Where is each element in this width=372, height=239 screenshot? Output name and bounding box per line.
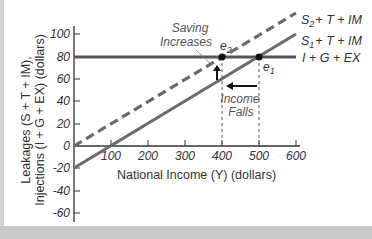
y-tick-label: 40 bbox=[57, 94, 71, 108]
x-axis: 100 200 300 400 500 600 bbox=[74, 140, 306, 163]
e1-point bbox=[256, 54, 263, 61]
income-falls-line2: Falls bbox=[228, 105, 253, 119]
saving-increases-line2: Increases bbox=[160, 35, 212, 49]
chart-svg: 100 80 60 40 20 0 -20 -40 -60 100 200 30… bbox=[0, 0, 372, 239]
x-tick-label: 300 bbox=[175, 149, 195, 163]
y-tick-label: -20 bbox=[53, 161, 71, 175]
y-tick-label: -40 bbox=[53, 184, 71, 198]
y-axis-title-line2: Injections (I + G + EX) (dollars) bbox=[33, 34, 47, 206]
y-tick-labels: 100 80 60 40 20 0 -20 -40 -60 bbox=[50, 27, 70, 220]
y-axis-title: Leakages (S + T + IM), Injections (I + G… bbox=[19, 34, 47, 206]
up-arrow-icon bbox=[213, 65, 221, 80]
x-tick-label: 400 bbox=[212, 149, 232, 163]
y-axis-title-line1: Leakages (S + T + IM), bbox=[19, 56, 33, 183]
y-tick-label: 20 bbox=[56, 117, 71, 131]
saving-increases-line1: Saving bbox=[172, 21, 209, 35]
e1-label: e1 bbox=[263, 60, 275, 76]
x-tick-label: 600 bbox=[286, 149, 306, 163]
y-tick-label: 80 bbox=[57, 50, 71, 64]
x-tick-label: 500 bbox=[249, 149, 269, 163]
x-tick-labels: 100 200 300 400 500 600 bbox=[101, 149, 306, 163]
y-tick-label: 0 bbox=[63, 139, 70, 153]
e2-point bbox=[219, 54, 226, 61]
y-tick-label: -60 bbox=[53, 206, 71, 220]
x-axis-title: National Income (Y) (dollars) bbox=[117, 168, 276, 182]
s1-leakages-line bbox=[74, 34, 296, 168]
income-falls-line1: Income bbox=[220, 92, 260, 106]
e2-label: e2 bbox=[220, 39, 232, 55]
y-tick-label: 100 bbox=[50, 27, 70, 41]
x-tick-label: 200 bbox=[137, 149, 158, 163]
y-tick-label: 60 bbox=[57, 72, 71, 86]
s2-curve-label: S2+ T + IM bbox=[301, 13, 362, 29]
injections-curve-label: I + G + EX bbox=[302, 51, 361, 65]
s1-curve-label: S1+ T + IM bbox=[301, 34, 362, 50]
left-arrow-icon bbox=[226, 82, 257, 90]
